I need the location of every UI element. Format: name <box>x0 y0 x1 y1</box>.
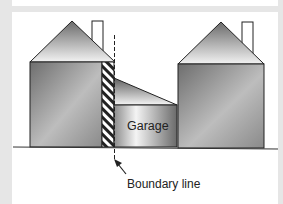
left-house-body <box>30 62 102 147</box>
boundary-arrow-icon <box>114 159 126 174</box>
garage-label: Garage <box>127 119 169 133</box>
hatched-party-wall <box>102 62 114 147</box>
boundary-diagram <box>0 0 283 204</box>
boundary-line-label: Boundary line <box>127 177 200 191</box>
garage-roof <box>114 78 177 105</box>
left-house <box>30 21 115 147</box>
right-house-body <box>178 64 264 148</box>
right-house <box>178 22 264 148</box>
garage <box>114 78 177 147</box>
